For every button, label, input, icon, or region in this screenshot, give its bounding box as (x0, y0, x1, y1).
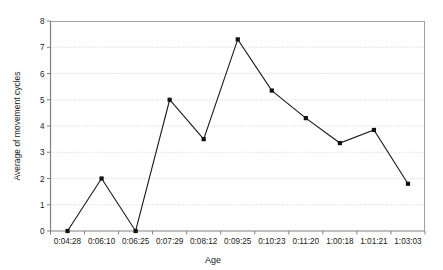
data-point (236, 37, 240, 41)
data-point (338, 141, 342, 145)
x-tick-labels: 0:04:280:06:100:06:250:07:290:08:120:09:… (54, 237, 422, 246)
x-axis-title: Age (205, 255, 221, 265)
data-point (202, 137, 206, 141)
y-tick-label: 1 (40, 201, 45, 210)
gridlines (51, 47, 426, 205)
x-tick-label: 0:09:25 (224, 237, 252, 246)
y-tick-label: 0 (40, 227, 45, 236)
y-tick-label: 8 (40, 17, 45, 26)
x-tick-label: 1:00:18 (326, 237, 354, 246)
data-point (65, 229, 69, 233)
data-point (134, 229, 138, 233)
chart-container: 012345678 0:04:280:06:100:06:250:07:290:… (0, 0, 443, 270)
y-axis-title: Average of movement cycles (12, 72, 22, 181)
data-point (168, 98, 172, 102)
x-tick-label: 1:01:21 (360, 237, 388, 246)
data-line (68, 39, 408, 231)
x-tick-label: 0:11:20 (292, 237, 319, 246)
data-point (99, 176, 103, 180)
data-point (270, 88, 274, 92)
x-tick-label: 0:04:28 (54, 237, 82, 246)
y-tick-label: 4 (40, 122, 45, 131)
x-tick-label: 0:08:12 (190, 237, 218, 246)
data-markers (65, 37, 410, 233)
y-tick-label: 7 (40, 43, 45, 52)
y-tick-labels: 012345678 (40, 17, 45, 236)
line-chart: 012345678 0:04:280:06:100:06:250:07:290:… (0, 0, 443, 270)
y-tick-label: 5 (40, 96, 45, 105)
x-tick-label: 1:03:03 (394, 237, 422, 246)
data-point (304, 116, 308, 120)
x-tick-label: 0:06:25 (122, 237, 150, 246)
x-tick-label: 0:07:29 (156, 237, 184, 246)
y-tick-label: 3 (40, 148, 45, 157)
data-point (406, 182, 410, 186)
y-tick-label: 6 (40, 70, 45, 79)
x-tick-label: 0:10:23 (258, 237, 286, 246)
y-tick-label: 2 (40, 175, 45, 184)
data-point (372, 128, 376, 132)
x-tick-label: 0:06:10 (88, 237, 116, 246)
